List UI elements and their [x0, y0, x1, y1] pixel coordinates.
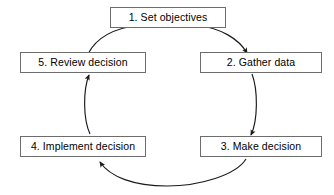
node-label-3: 3. Make decision	[221, 141, 301, 153]
node-gather-data[interactable]: 2. Gather data	[200, 52, 322, 73]
connector-make-to-implement	[100, 159, 246, 186]
connector-objectives-to-gather	[196, 25, 247, 53]
node-implement-decision[interactable]: 4. Implement decision	[20, 136, 146, 157]
node-make-decision[interactable]: 3. Make decision	[200, 136, 322, 157]
node-label-5: 5. Review decision	[38, 57, 127, 69]
node-label-2: 2. Gather data	[227, 57, 296, 69]
node-set-objectives[interactable]: 1. Set objectives	[110, 7, 226, 28]
cycle-diagram: 1. Set objectives 2. Gather data 3. Make…	[0, 0, 334, 195]
cycle-arrows-layer	[0, 0, 334, 195]
node-label-4: 4. Implement decision	[31, 141, 135, 153]
node-label-1: 1. Set objectives	[129, 12, 208, 24]
connector-review-to-objectives	[88, 25, 140, 54]
connector-implement-to-review	[85, 75, 90, 134]
connector-gather-to-make	[251, 74, 256, 135]
node-review-decision[interactable]: 5. Review decision	[20, 52, 146, 73]
